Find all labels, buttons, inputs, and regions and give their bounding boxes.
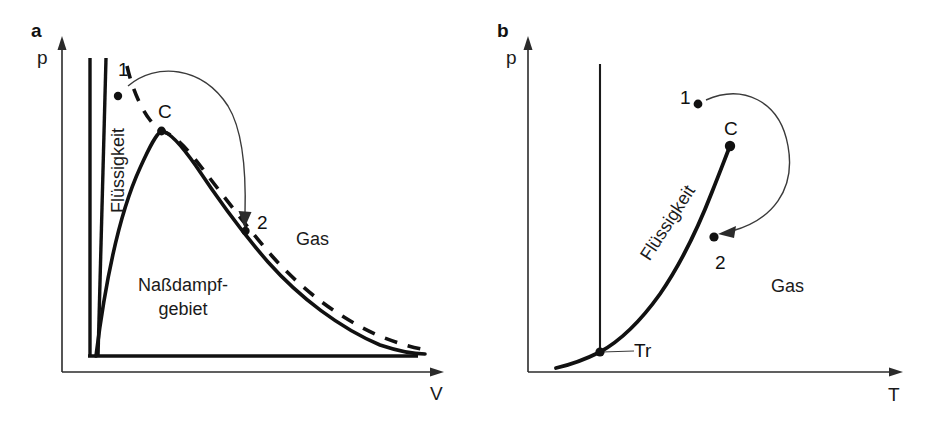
triple-point-leader-line <box>602 351 634 352</box>
y-axis-arrowhead <box>58 36 67 50</box>
panel-a-x-axis-label: V <box>430 384 443 403</box>
panel-b-point-2-label: 2 <box>715 253 726 272</box>
x-axis-arrowhead <box>430 368 444 377</box>
panel-b-point-1-label: 1 <box>680 88 691 107</box>
panel-a-y-axis-label: p <box>37 48 48 67</box>
process-arrow-arrowhead <box>718 226 736 238</box>
panel-b-point-c-label: C <box>724 119 738 138</box>
panel-b-label-gas: Gas <box>771 276 804 297</box>
point-1-marker <box>694 100 703 109</box>
panel-a-point-1-label: 1 <box>118 60 129 79</box>
point-C-marker <box>157 127 166 136</box>
panel-b-axes <box>524 36 904 377</box>
panel-b-y-axis-label: p <box>506 48 517 67</box>
panel-a-label-liquid: Flüssigkeit <box>108 128 129 213</box>
process-arrow-curve <box>706 94 790 231</box>
panel-b-letter: b <box>497 21 509 40</box>
panel-a-plot <box>0 0 470 424</box>
panel-a: a p V Flüssigkeit Naßdampf- gebiet Gas 1… <box>0 0 470 424</box>
point-C-marker <box>725 141 735 151</box>
panel-a-label-gas: Gas <box>296 229 329 250</box>
y-axis-arrowhead <box>524 36 533 50</box>
panel-a-label-wet-steam-line2: gebiet <box>133 299 233 320</box>
panel-a-letter: a <box>31 21 42 40</box>
figure-phase-diagrams: a p V Flüssigkeit Naßdampf- gebiet Gas 1… <box>0 0 937 424</box>
panel-a-point-c-label: C <box>158 102 172 121</box>
x-axis-arrowhead <box>889 368 903 377</box>
process-arrow-curve <box>128 71 245 214</box>
point-1-marker <box>114 92 122 100</box>
point-2-marker <box>709 232 718 241</box>
panel-a-label-wet-steam-line1: Naßdampf- <box>133 275 233 296</box>
panel-b-x-axis-label: T <box>888 385 900 404</box>
point-Tr-marker <box>595 347 604 356</box>
panel-b-point-tr-label: Tr <box>634 341 651 360</box>
panel-a-point-2-label: 2 <box>257 213 268 232</box>
panel-b: b p T Flüssigkeit Gas 1 2 C Tr <box>470 0 937 424</box>
point-2-marker <box>241 227 249 235</box>
panel-b-plot <box>470 0 937 424</box>
